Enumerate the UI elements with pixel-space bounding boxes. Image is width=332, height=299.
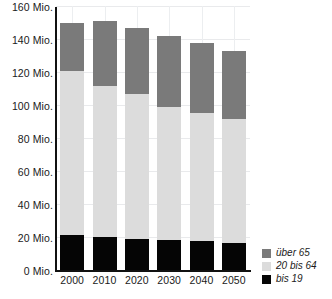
legend-swatch-icon	[262, 262, 271, 271]
y-axis: 0 Mio.20 Mio.40 Mio.60 Mio.80 Mio.100 Mi…	[0, 0, 53, 299]
y-axis-line	[55, 7, 57, 271]
bar-segment-bis-19	[222, 243, 246, 270]
chart-legend: über 6520 bis 64bis 19	[262, 247, 332, 286]
bar-segment-über-65	[125, 28, 149, 93]
y-axis-tick-label: 40 Mio.	[1, 200, 53, 211]
y-axis-tick-label: 0 Mio.	[1, 266, 53, 277]
bar-2030	[157, 6, 181, 270]
x-axis: 200020102020203020402050	[56, 274, 250, 292]
bar-segment-bis-19	[157, 240, 181, 270]
bar-segment-über-65	[222, 51, 246, 119]
legend-item: bis 19	[262, 273, 332, 285]
bar-2000	[60, 6, 84, 270]
bar-segment-bis-19	[190, 241, 214, 270]
bar-segment-20-bis-64	[157, 107, 181, 240]
legend-swatch-icon	[262, 275, 271, 284]
legend-swatch-icon	[262, 249, 271, 258]
bar-segment-über-65	[190, 43, 214, 113]
y-axis-tick-label: 120 Mio.	[1, 68, 53, 79]
bar-segment-über-65	[93, 21, 117, 85]
y-axis-tick-label: 100 Mio.	[1, 101, 53, 112]
y-axis-tick-label: 60 Mio.	[1, 167, 53, 178]
bar-segment-20-bis-64	[190, 113, 214, 241]
bar-segment-über-65	[60, 23, 84, 71]
bar-2040	[190, 6, 214, 270]
y-axis-tick-label: 20 Mio.	[1, 233, 53, 244]
y-axis-tick-label: 140 Mio.	[1, 35, 53, 46]
y-axis-tick-label: 160 Mio.	[1, 2, 53, 13]
bar-segment-über-65	[157, 36, 181, 107]
bar-segment-20-bis-64	[125, 94, 149, 240]
bar-segment-20-bis-64	[222, 119, 246, 243]
legend-item: über 65	[262, 247, 332, 259]
x-axis-line	[55, 270, 251, 272]
bar-segment-bis-19	[125, 239, 149, 270]
bar-segment-20-bis-64	[93, 86, 117, 238]
y-axis-tick-label: 80 Mio.	[1, 134, 53, 145]
bar-2050	[222, 6, 246, 270]
stacked-bar-chart: 0 Mio.20 Mio.40 Mio.60 Mio.80 Mio.100 Mi…	[0, 0, 332, 299]
bar-segment-bis-19	[60, 235, 84, 270]
bar-2020	[125, 6, 149, 270]
bar-segment-bis-19	[93, 237, 117, 270]
bar-2010	[93, 6, 117, 270]
plot-area	[56, 6, 250, 270]
x-axis-tick-label-2050: 2050	[214, 274, 254, 287]
legend-label: 20 bis 64	[276, 261, 317, 271]
legend-item: 20 bis 64	[262, 260, 332, 272]
legend-label: bis 19	[276, 274, 303, 284]
legend-label: über 65	[276, 248, 310, 258]
bar-segment-20-bis-64	[60, 71, 84, 235]
